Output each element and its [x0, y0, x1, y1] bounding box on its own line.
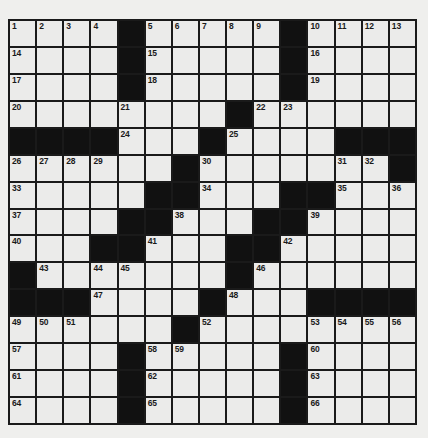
grid-cell[interactable] — [200, 236, 225, 261]
grid-cell[interactable] — [390, 48, 415, 73]
grid-cell[interactable]: 13 — [390, 21, 415, 46]
grid-cell[interactable] — [146, 290, 171, 315]
grid-cell[interactable]: 23 — [281, 102, 306, 127]
grid-cell[interactable]: 35 — [336, 183, 361, 208]
grid-cell[interactable] — [227, 210, 252, 235]
grid-cell[interactable] — [91, 398, 116, 423]
grid-cell[interactable]: 34 — [200, 183, 225, 208]
grid-cell[interactable]: 58 — [146, 344, 171, 369]
grid-cell[interactable] — [281, 317, 306, 342]
grid-cell[interactable] — [119, 156, 144, 181]
grid-cell[interactable]: 53 — [308, 317, 333, 342]
grid-cell[interactable] — [64, 236, 89, 261]
grid-cell[interactable]: 27 — [37, 156, 62, 181]
grid-cell[interactable]: 61 — [10, 371, 35, 396]
grid-cell[interactable] — [308, 156, 333, 181]
grid-cell[interactable]: 31 — [336, 156, 361, 181]
grid-cell[interactable]: 54 — [336, 317, 361, 342]
grid-cell[interactable] — [227, 317, 252, 342]
grid-cell[interactable]: 32 — [363, 156, 388, 181]
grid-cell[interactable]: 50 — [37, 317, 62, 342]
grid-cell[interactable] — [363, 398, 388, 423]
grid-cell[interactable] — [37, 75, 62, 100]
grid-cell[interactable] — [91, 102, 116, 127]
grid-cell[interactable] — [119, 183, 144, 208]
grid-cell[interactable]: 57 — [10, 344, 35, 369]
grid-cell[interactable] — [308, 129, 333, 154]
grid-cell[interactable]: 38 — [173, 210, 198, 235]
grid-cell[interactable] — [281, 263, 306, 288]
grid-cell[interactable] — [200, 344, 225, 369]
grid-cell[interactable] — [254, 183, 279, 208]
grid-cell[interactable]: 22 — [254, 102, 279, 127]
grid-cell[interactable]: 45 — [119, 263, 144, 288]
grid-cell[interactable] — [254, 290, 279, 315]
grid-cell[interactable] — [146, 156, 171, 181]
grid-cell[interactable] — [363, 210, 388, 235]
grid-cell[interactable] — [146, 263, 171, 288]
grid-cell[interactable] — [308, 236, 333, 261]
grid-cell[interactable] — [37, 102, 62, 127]
grid-cell[interactable]: 63 — [308, 371, 333, 396]
grid-cell[interactable] — [336, 236, 361, 261]
grid-cell[interactable]: 39 — [308, 210, 333, 235]
grid-cell[interactable]: 14 — [10, 48, 35, 73]
grid-cell[interactable]: 49 — [10, 317, 35, 342]
grid-cell[interactable]: 17 — [10, 75, 35, 100]
grid-cell[interactable]: 21 — [119, 102, 144, 127]
grid-cell[interactable] — [390, 371, 415, 396]
grid-cell[interactable]: 51 — [64, 317, 89, 342]
grid-cell[interactable]: 62 — [146, 371, 171, 396]
grid-cell[interactable] — [37, 344, 62, 369]
grid-cell[interactable] — [254, 129, 279, 154]
grid-cell[interactable] — [37, 48, 62, 73]
grid-cell[interactable] — [281, 156, 306, 181]
grid-cell[interactable] — [227, 398, 252, 423]
grid-cell[interactable]: 43 — [37, 263, 62, 288]
grid-cell[interactable] — [91, 344, 116, 369]
grid-cell[interactable]: 3 — [64, 21, 89, 46]
grid-cell[interactable] — [173, 236, 198, 261]
grid-cell[interactable] — [390, 398, 415, 423]
grid-cell[interactable] — [363, 263, 388, 288]
grid-cell[interactable] — [363, 344, 388, 369]
grid-cell[interactable] — [363, 48, 388, 73]
grid-cell[interactable] — [336, 398, 361, 423]
grid-cell[interactable] — [200, 102, 225, 127]
grid-cell[interactable]: 33 — [10, 183, 35, 208]
grid-cell[interactable]: 52 — [200, 317, 225, 342]
grid-cell[interactable] — [200, 263, 225, 288]
grid-cell[interactable] — [37, 183, 62, 208]
grid-cell[interactable] — [336, 102, 361, 127]
grid-cell[interactable] — [390, 75, 415, 100]
grid-cell[interactable] — [227, 371, 252, 396]
grid-cell[interactable] — [363, 371, 388, 396]
grid-cell[interactable]: 1 — [10, 21, 35, 46]
grid-cell[interactable]: 66 — [308, 398, 333, 423]
grid-cell[interactable] — [200, 371, 225, 396]
grid-cell[interactable]: 36 — [390, 183, 415, 208]
grid-cell[interactable]: 5 — [146, 21, 171, 46]
grid-cell[interactable]: 60 — [308, 344, 333, 369]
grid-cell[interactable]: 48 — [227, 290, 252, 315]
grid-cell[interactable] — [91, 48, 116, 73]
grid-cell[interactable] — [64, 210, 89, 235]
grid-cell[interactable]: 15 — [146, 48, 171, 73]
grid-cell[interactable] — [254, 75, 279, 100]
grid-cell[interactable]: 26 — [10, 156, 35, 181]
grid-cell[interactable]: 55 — [363, 317, 388, 342]
grid-cell[interactable] — [173, 75, 198, 100]
grid-cell[interactable]: 4 — [91, 21, 116, 46]
grid-cell[interactable] — [64, 183, 89, 208]
grid-cell[interactable] — [91, 210, 116, 235]
grid-cell[interactable] — [336, 344, 361, 369]
grid-cell[interactable]: 20 — [10, 102, 35, 127]
grid-cell[interactable] — [200, 48, 225, 73]
grid-cell[interactable] — [146, 102, 171, 127]
grid-cell[interactable] — [227, 183, 252, 208]
grid-cell[interactable] — [64, 344, 89, 369]
grid-cell[interactable]: 41 — [146, 236, 171, 261]
grid-cell[interactable] — [146, 317, 171, 342]
grid-cell[interactable] — [281, 129, 306, 154]
grid-cell[interactable]: 47 — [91, 290, 116, 315]
